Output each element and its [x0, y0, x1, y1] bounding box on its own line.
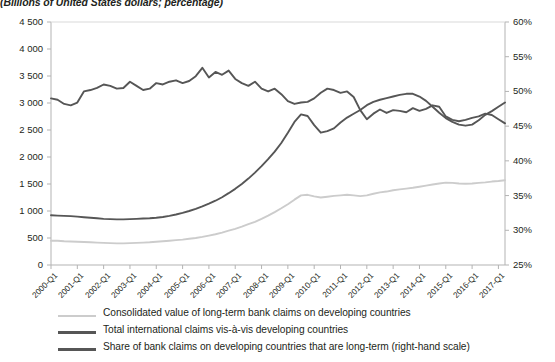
chart-legend: Consolidated value of long-term bank cla…: [0, 307, 555, 358]
legend-item[interactable]: Total international claims vis-à-vis dev…: [0, 324, 555, 341]
y-axis-left-tick: 1 000: [0, 205, 43, 216]
y-axis-right-tick: 35%: [513, 190, 532, 201]
series-line-0: [51, 180, 505, 243]
chart-root: (Billions of United States dollars; perc…: [0, 0, 555, 362]
series-line-2: [51, 68, 505, 124]
series-line-1: [51, 94, 505, 220]
y-axis-left-tick: 1 500: [0, 178, 43, 189]
y-axis-left-tick: 500: [0, 232, 43, 243]
y-axis-right-tick: 45%: [513, 120, 532, 131]
y-axis-left-tick: 4 500: [0, 16, 43, 27]
y-axis-left-tick: 3 000: [0, 97, 43, 108]
y-axis-right-tick: 60%: [513, 16, 532, 27]
y-axis-left-tick: 2 000: [0, 151, 43, 162]
y-axis-right-tick: 50%: [513, 85, 532, 96]
legend-label: Consolidated value of long-term bank cla…: [103, 307, 411, 318]
legend-color-swatch: [58, 348, 96, 351]
axis-layer: [47, 22, 509, 269]
legend-item[interactable]: Consolidated value of long-term bank cla…: [0, 307, 555, 324]
y-axis-left-tick: 0: [0, 259, 43, 270]
y-axis-right-tick: 25%: [513, 259, 532, 270]
legend-color-swatch: [58, 315, 96, 318]
legend-label: Total international claims vis-à-vis dev…: [103, 324, 348, 335]
legend-color-swatch: [58, 331, 96, 334]
legend-item[interactable]: Share of bank claims on developing count…: [0, 341, 555, 358]
y-axis-right-tick: 30%: [513, 224, 532, 235]
legend-label: Share of bank claims on developing count…: [103, 341, 470, 352]
series-layer: [51, 68, 505, 244]
y-axis-right-tick: 55%: [513, 51, 532, 62]
y-axis-left-tick: 4 000: [0, 43, 43, 54]
y-axis-left-tick: 2 500: [0, 124, 43, 135]
y-axis-left-tick: 3 500: [0, 70, 43, 81]
y-axis-right-tick: 40%: [513, 155, 532, 166]
